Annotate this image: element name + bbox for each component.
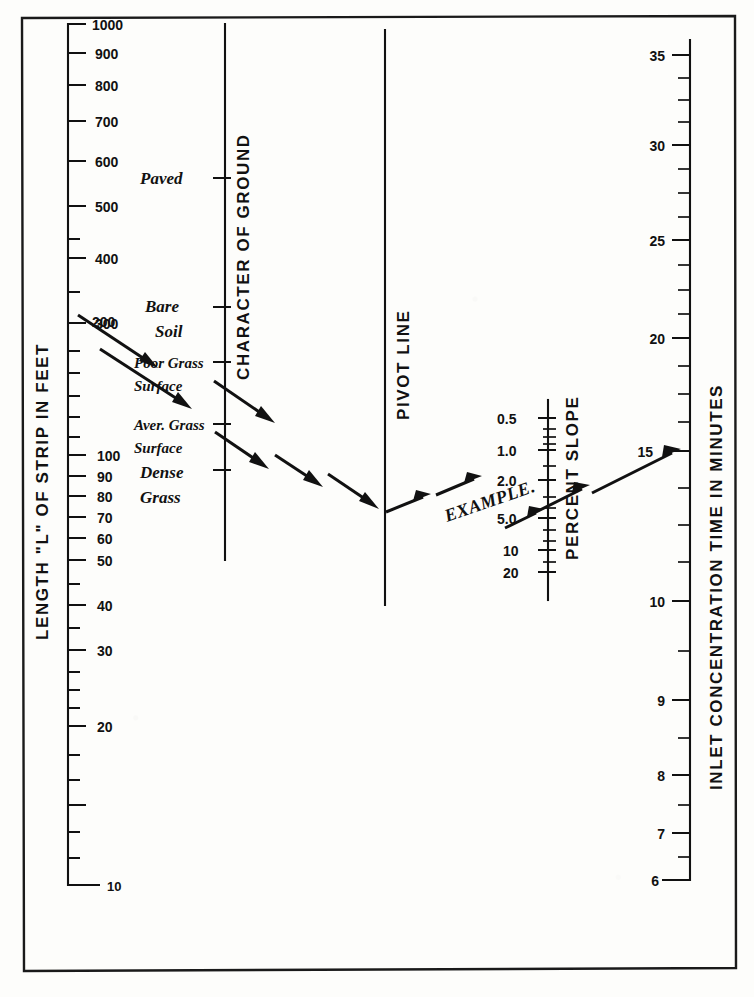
time-tick-7: 7 xyxy=(657,826,665,842)
length-tick-1000: 1000 xyxy=(92,17,123,33)
ground-label-bare-line2: Soil xyxy=(155,322,183,341)
time-ticks xyxy=(662,55,690,880)
ground-label-aver-grass-line2: Surface xyxy=(134,440,183,456)
length-tick-800: 800 xyxy=(95,78,119,94)
length-tick-40: 40 xyxy=(97,598,113,614)
length-tick-400: 400 xyxy=(95,251,119,267)
ground-label-dense-line2: Grass xyxy=(140,488,181,507)
time-tick-6: 6 xyxy=(651,873,659,889)
length-tick-30: 30 xyxy=(97,643,113,659)
ground-label-bare: Bare xyxy=(144,297,179,316)
example-arrow-segment-4 xyxy=(215,432,269,469)
length-tick-500: 500 xyxy=(95,199,119,215)
time-tick-30: 30 xyxy=(649,138,665,154)
length-tick-20: 20 xyxy=(97,719,113,735)
example-arrow-segment-3 xyxy=(214,381,275,423)
ground-label-paved: Paved xyxy=(139,169,183,188)
axis-ground: CHARACTER OF GROUND Paved Bare Soil Poor… xyxy=(133,24,253,560)
time-tick-8: 8 xyxy=(657,768,665,784)
length-tick-90: 90 xyxy=(97,469,113,485)
length-tick-600: 600 xyxy=(95,154,119,170)
time-tick-35: 35 xyxy=(649,48,665,64)
figure-frame xyxy=(22,16,736,971)
ground-ticks xyxy=(213,178,231,470)
slope-tick-0-5: 0.5 xyxy=(497,411,517,427)
slope-axis-title: PERCENT SLOPE xyxy=(563,396,582,560)
time-tick-9: 9 xyxy=(657,693,665,709)
axis-length: 1000 900 800 700 600 500 400 300 200 200… xyxy=(33,17,123,894)
example-arrow-segment-8 xyxy=(436,472,482,495)
ground-axis-title: CHARACTER OF GROUND xyxy=(234,133,253,380)
nomograph-figure: 1000 900 800 700 600 500 400 300 200 200… xyxy=(0,0,754,997)
slope-tick-10: 10 xyxy=(503,543,519,559)
length-tick-900: 900 xyxy=(95,46,119,62)
example-arrow-segment-7 xyxy=(386,490,431,512)
length-tick-70: 70 xyxy=(97,510,113,526)
time-tick-10: 10 xyxy=(649,594,665,610)
example-arrow-segment-5 xyxy=(275,455,323,487)
example-arrow-segment-6 xyxy=(328,474,379,509)
slope-tick-1-0: 1.0 xyxy=(497,443,517,459)
axis-pivot: PIVOT LINE xyxy=(385,30,413,605)
length-tick-100: 100 xyxy=(97,448,121,464)
length-tick-50: 50 xyxy=(97,553,113,569)
ground-label-aver-grass: Aver. Grass xyxy=(133,417,205,433)
time-tick-25: 25 xyxy=(649,233,665,249)
length-axis-title: LENGTH "L" OF STRIP IN FEET xyxy=(33,343,52,640)
length-tick-10: 10 xyxy=(107,879,121,894)
pivot-axis-title: PIVOT LINE xyxy=(394,310,413,420)
length-tick-700: 700 xyxy=(95,114,119,130)
nomograph-canvas: 1000 900 800 700 600 500 400 300 200 200… xyxy=(0,0,754,997)
time-tick-20: 20 xyxy=(649,331,665,347)
ground-label-dense: Dense xyxy=(139,463,184,482)
length-tick-80: 80 xyxy=(97,489,113,505)
slope-tick-20: 20 xyxy=(503,565,519,581)
length-tick-60: 60 xyxy=(97,531,113,547)
time-axis-title: INLET CONCENTRATION TIME IN MINUTES xyxy=(707,384,726,790)
time-tick-15: 15 xyxy=(637,444,653,460)
